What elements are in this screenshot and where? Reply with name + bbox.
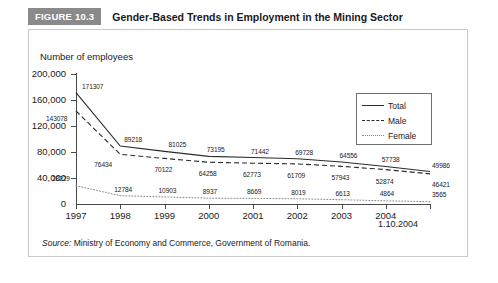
x-axis-final-label: 1.10.2004: [378, 219, 418, 229]
x-axis-tick-label: 2001: [231, 210, 275, 221]
data-label-female: 3565: [432, 191, 446, 198]
legend-label: Total: [388, 101, 406, 111]
x-axis-tick-label: 2002: [275, 210, 319, 221]
figure-header: FIGURE 10.3 Gender-Based Trends in Emplo…: [28, 8, 470, 25]
y-axis-tick-mark: [71, 152, 76, 153]
y-axis-tick-mark: [71, 126, 76, 127]
x-axis-tick-label: 1998: [98, 210, 142, 221]
legend-swatch-dashed-icon: [362, 117, 384, 125]
data-label-total: 81025: [169, 141, 187, 148]
data-label-female: 8019: [291, 189, 305, 196]
x-axis-tick-mark: [342, 205, 343, 209]
x-axis-tick-label: 1999: [143, 210, 187, 221]
legend-label: Male: [388, 116, 406, 126]
data-label-female: 10903: [159, 187, 177, 194]
source-text: Ministry of Economy and Commerce, Govern…: [71, 238, 310, 248]
y-axis-tick-label: 0: [8, 198, 66, 209]
legend-item-female: Female: [362, 128, 431, 143]
data-label-female: 6613: [336, 190, 350, 197]
data-label-female: 28229: [52, 175, 70, 182]
x-axis-tick-mark: [430, 205, 431, 209]
x-axis-tick-mark: [209, 205, 210, 209]
data-label-female: 8669: [247, 188, 261, 195]
x-axis-tick-mark: [165, 205, 166, 209]
figure-container: FIGURE 10.3 Gender-Based Trends in Emplo…: [0, 0, 498, 283]
legend-swatch-dotted-icon: [362, 132, 384, 140]
data-label-total: 89218: [124, 136, 142, 143]
y-axis-tick-mark: [71, 100, 76, 101]
data-label-total: 57738: [382, 156, 400, 163]
data-label-female: 4864: [380, 190, 394, 197]
legend-label: Female: [388, 131, 416, 141]
data-label-male: 143078: [46, 115, 67, 122]
legend-item-total: Total: [362, 98, 431, 113]
x-axis-tick-mark: [76, 205, 77, 209]
y-axis-tick-mark: [71, 74, 76, 75]
figure-number-badge: FIGURE 10.3: [28, 8, 101, 25]
data-label-total: 73195: [207, 146, 225, 153]
x-axis-tick-mark: [386, 205, 387, 209]
source-label: Source:: [42, 238, 71, 248]
x-axis-tick-label: 2003: [320, 210, 364, 221]
data-label-male: 46421: [432, 181, 450, 188]
figure-title: Gender-Based Trends in Employment in the…: [101, 8, 403, 25]
data-label-total: 69728: [295, 149, 313, 156]
data-label-total: 49986: [432, 162, 450, 169]
data-label-total: 171307: [82, 83, 103, 90]
y-axis-line: [76, 73, 77, 205]
data-label-total: 64556: [340, 152, 358, 159]
data-label-female: 8937: [203, 188, 217, 195]
y-axis-tick-label: 160,000: [8, 94, 66, 105]
x-axis-tick-mark: [297, 205, 298, 209]
data-label-male: 62773: [243, 171, 261, 178]
source-note: Source: Ministry of Economy and Commerce…: [42, 238, 310, 248]
x-axis-tick-label: 2000: [187, 210, 231, 221]
data-label-male: 52874: [376, 178, 394, 185]
chart-legend: TotalMaleFemale: [356, 93, 432, 145]
data-label-female: 12784: [114, 186, 132, 193]
data-label-male: 57943: [332, 174, 350, 181]
legend-item-male: Male: [362, 113, 431, 128]
y-axis-title: Number of employees: [40, 51, 133, 62]
data-label-male: 70122: [155, 166, 173, 173]
data-label-male: 64258: [199, 170, 217, 177]
x-axis-tick-mark: [253, 205, 254, 209]
data-label-total: 71442: [251, 148, 269, 155]
data-label-male: 61709: [287, 172, 305, 179]
data-label-male: 76434: [94, 161, 112, 168]
y-axis-tick-label: 80,000: [8, 146, 66, 157]
y-axis-tick-mark: [71, 178, 76, 179]
x-axis-tick-mark: [120, 205, 121, 209]
y-axis-tick-label: 200,000: [8, 68, 66, 79]
legend-swatch-solid-icon: [362, 102, 384, 110]
x-axis-tick-label: 1997: [54, 210, 98, 221]
